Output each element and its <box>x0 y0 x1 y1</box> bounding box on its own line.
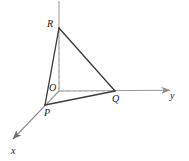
geometry-canvas <box>0 0 189 161</box>
edge-P-Q <box>45 91 115 105</box>
x-axis <box>13 91 59 139</box>
triangle-PQR <box>45 28 115 105</box>
edge-Q-R <box>59 28 115 91</box>
axes-group <box>13 1 170 139</box>
geometry-figure: R O P Q x y <box>0 0 189 161</box>
